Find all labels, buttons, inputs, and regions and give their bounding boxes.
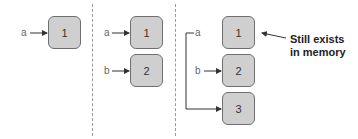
memory-box-2: 2 — [130, 54, 163, 87]
annotation-line-2: in memory — [290, 46, 346, 59]
variable-b-label: b — [195, 66, 201, 76]
memory-box-1: 1 — [48, 16, 81, 49]
panel-divider — [92, 4, 93, 136]
annotation-arrow — [262, 33, 286, 38]
memory-box-1: 1 — [130, 16, 163, 49]
memory-box-2: 2 — [222, 54, 255, 87]
annotation-text: Still exists in memory — [290, 33, 346, 59]
annotation-line-1: Still exists — [290, 33, 346, 46]
variable-a-label: a — [195, 28, 201, 38]
memory-box-3: 3 — [222, 92, 255, 125]
memory-box-1: 1 — [222, 16, 255, 49]
variable-b-label: b — [104, 66, 110, 76]
panel-divider — [175, 4, 176, 136]
variable-a-label: a — [104, 28, 110, 38]
variable-a-label: a — [21, 28, 27, 38]
